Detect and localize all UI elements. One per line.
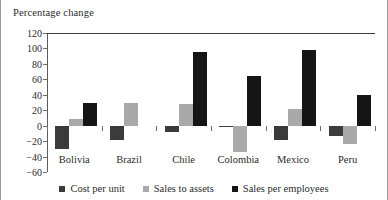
plot-area: 120100806040200−20−40−60 BoliviaBrazilCh… <box>47 33 375 172</box>
x-axis-category-label: Brazil <box>116 154 142 165</box>
chart-title: Percentage change <box>13 7 94 18</box>
legend-label: Cost per unit <box>70 183 124 194</box>
bar <box>124 103 138 125</box>
bar <box>274 126 288 141</box>
bar <box>69 119 83 125</box>
y-axis-tick-label: −40 <box>10 151 47 162</box>
x-axis-category-label: Bolivia <box>59 154 90 165</box>
x-axis-tick-mark <box>375 126 376 131</box>
bar-group <box>320 33 375 172</box>
y-axis-tick-label: 60 <box>10 74 47 85</box>
bar <box>55 126 69 149</box>
bar <box>179 104 193 126</box>
bar <box>83 103 97 126</box>
bar-group <box>266 33 321 172</box>
bar <box>329 126 343 137</box>
x-axis-category-label: Colombia <box>218 154 259 165</box>
bar <box>247 76 261 125</box>
bar-group <box>102 33 157 172</box>
bar <box>288 109 302 126</box>
y-axis-tick-label: 80 <box>10 58 47 69</box>
bar-group <box>156 33 211 172</box>
bar <box>357 95 371 126</box>
y-axis-tick-label: 40 <box>10 89 47 100</box>
y-axis-tick-label: 0 <box>10 120 47 131</box>
chart-frame: Percentage change 120100806040200−20−40−… <box>0 0 388 200</box>
legend-item[interactable]: Cost per unit <box>59 183 124 194</box>
legend-label: Sales to assets <box>154 183 214 194</box>
legend-label: Sales per employees <box>243 183 329 194</box>
bar-group <box>211 33 266 172</box>
bar <box>233 126 247 152</box>
y-axis-tick-label: 20 <box>10 105 47 116</box>
bar <box>302 50 316 126</box>
bar <box>219 126 233 128</box>
bar <box>110 126 124 141</box>
y-axis-tick-label: 100 <box>10 43 47 54</box>
x-axis-category-label: Peru <box>338 154 357 165</box>
chart-legend: Cost per unitSales to assetsSales per em… <box>1 183 387 194</box>
bar <box>165 126 179 132</box>
x-axis-category-label: Mexico <box>277 154 309 165</box>
legend-swatch-icon <box>232 186 238 192</box>
bar <box>193 52 207 126</box>
legend-item[interactable]: Sales to assets <box>143 183 214 194</box>
x-axis-category-label: Chile <box>172 154 195 165</box>
legend-swatch-icon <box>143 186 149 192</box>
legend-swatch-icon <box>59 186 65 192</box>
bar <box>343 126 357 145</box>
legend-item[interactable]: Sales per employees <box>232 183 329 194</box>
y-axis-tick-label: −60 <box>10 167 47 178</box>
y-axis-tick-label: 120 <box>10 28 47 39</box>
bar-group <box>47 33 102 172</box>
y-axis-tick-mark <box>43 172 47 173</box>
y-axis-tick-label: −20 <box>10 136 47 147</box>
